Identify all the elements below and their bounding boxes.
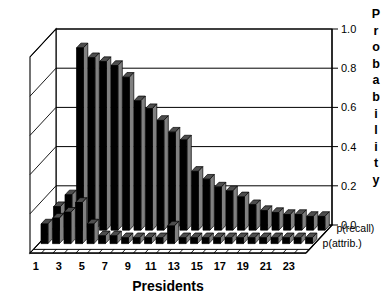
bar-front-face bbox=[306, 238, 313, 244]
bar-front-face bbox=[122, 238, 129, 244]
bar-front-face bbox=[110, 236, 117, 244]
bar-pattrib-3 bbox=[64, 208, 75, 244]
y-tick-label: 1.0 bbox=[341, 23, 356, 35]
bar-front-face bbox=[237, 238, 244, 244]
y-axis-title-letter: b bbox=[362, 89, 390, 106]
bar-precall-17 bbox=[237, 192, 248, 230]
bar-front-face bbox=[133, 238, 140, 244]
bar-front-face bbox=[156, 238, 163, 244]
bar-front-face bbox=[226, 191, 233, 230]
bar-pattrib-1 bbox=[41, 219, 52, 243]
bar-precall-21 bbox=[283, 210, 294, 230]
bar-front-face bbox=[53, 218, 60, 243]
x-tick-label: 9 bbox=[125, 260, 131, 272]
y-axis-title-letter: l bbox=[362, 122, 390, 139]
bar-precall-15 bbox=[214, 182, 225, 230]
bar-front-face bbox=[76, 202, 83, 243]
y-tick-label: 0.8 bbox=[341, 62, 356, 74]
y-axis-title-letter: b bbox=[362, 56, 390, 73]
bar-side-face bbox=[118, 61, 122, 230]
x-tick-label: 17 bbox=[214, 260, 226, 272]
bar-side-face bbox=[141, 96, 145, 230]
y-axis-title-letter: i bbox=[362, 106, 390, 123]
chart-root: 1.00.80.60.40.20.01357911131517192123Pre… bbox=[0, 0, 392, 300]
x-tick-label: 15 bbox=[191, 260, 203, 272]
y-axis-title-letter: i bbox=[362, 139, 390, 156]
bar-side-face bbox=[187, 135, 191, 230]
bar-pattrib-12 bbox=[168, 221, 179, 243]
bar-front-face bbox=[41, 224, 48, 244]
y-axis-title-letter: o bbox=[362, 39, 390, 56]
bar-side-face bbox=[175, 127, 179, 230]
bar-front-face bbox=[318, 216, 325, 230]
bar-front-face bbox=[191, 238, 198, 244]
bar-precall-11 bbox=[168, 127, 179, 230]
bar-side-face bbox=[82, 198, 86, 244]
bar-front-face bbox=[283, 238, 290, 244]
bar-side-face bbox=[59, 213, 63, 243]
bar-pattrib-5 bbox=[87, 219, 98, 243]
y-axis-title-letter: P bbox=[362, 6, 390, 23]
bar-front-face bbox=[294, 238, 301, 244]
x-tick-label: 5 bbox=[79, 260, 85, 272]
x-tick-label: 19 bbox=[237, 260, 249, 272]
bar-precall-10 bbox=[157, 116, 168, 231]
x-tick-label: 7 bbox=[102, 260, 108, 272]
bar-front-face bbox=[283, 215, 290, 231]
bar-pattrib-2 bbox=[53, 213, 64, 243]
bar-side-face bbox=[106, 57, 110, 230]
bar-side-face bbox=[95, 53, 99, 230]
y-tick-label: 0.2 bbox=[341, 180, 356, 192]
bar-front-face bbox=[111, 66, 118, 231]
legend-label-attrib: p(attrib.) bbox=[323, 237, 362, 249]
bar-side-face bbox=[71, 208, 75, 244]
bar-front-face bbox=[179, 238, 186, 244]
bar-front-face bbox=[99, 62, 106, 231]
bar-front-face bbox=[180, 140, 187, 230]
bar-side-face bbox=[244, 192, 248, 230]
x-axis-title: Presidents bbox=[132, 278, 204, 294]
bar-front-face bbox=[214, 238, 221, 244]
x-tick-label: 21 bbox=[260, 260, 272, 272]
bar-precall-24 bbox=[318, 212, 329, 230]
bar-front-face bbox=[99, 236, 106, 244]
bar-front-face bbox=[145, 238, 152, 244]
bar-front-face bbox=[134, 101, 141, 230]
bar-side-face bbox=[198, 167, 202, 231]
bar-front-face bbox=[225, 238, 232, 244]
bar-precall-7 bbox=[122, 73, 133, 231]
bar-front-face bbox=[168, 226, 175, 244]
bar-precall-14 bbox=[203, 174, 214, 230]
bar-precall-4 bbox=[88, 53, 99, 230]
bar-front-face bbox=[214, 187, 221, 230]
bar-side-face bbox=[233, 186, 237, 230]
x-tick-label: 3 bbox=[56, 260, 62, 272]
bar-precall-16 bbox=[226, 186, 237, 230]
y-axis-title-letter: y bbox=[362, 172, 390, 189]
bar-front-face bbox=[145, 109, 152, 231]
x-tick-label: 13 bbox=[168, 260, 180, 272]
bar-precall-5 bbox=[99, 57, 110, 230]
bar-front-face bbox=[88, 58, 95, 230]
bar-precall-9 bbox=[145, 104, 156, 230]
legend-label-recall: p(recall) bbox=[336, 222, 374, 234]
x-tick-label: 1 bbox=[33, 260, 39, 272]
bar-front-face bbox=[272, 213, 279, 231]
x-tick-label: 23 bbox=[283, 260, 295, 272]
bar-front-face bbox=[306, 216, 313, 230]
bar-precall-23 bbox=[306, 212, 317, 230]
bar-side-face bbox=[129, 73, 133, 231]
bar-pattrib-4 bbox=[76, 198, 87, 244]
bar-side-face bbox=[94, 219, 98, 243]
bar-front-face bbox=[271, 238, 278, 244]
bar-front-face bbox=[249, 205, 256, 230]
bar-front-face bbox=[203, 179, 210, 230]
bar-front-face bbox=[202, 238, 209, 244]
bar-precall-13 bbox=[191, 167, 202, 231]
y-tick-label: 0.4 bbox=[341, 141, 356, 153]
bar-front-face bbox=[191, 171, 198, 230]
bar-side-face bbox=[267, 206, 271, 230]
y-tick-label: 0.6 bbox=[341, 101, 356, 113]
y-axis-title: Probability bbox=[362, 6, 390, 189]
bar-front-face bbox=[157, 120, 164, 230]
